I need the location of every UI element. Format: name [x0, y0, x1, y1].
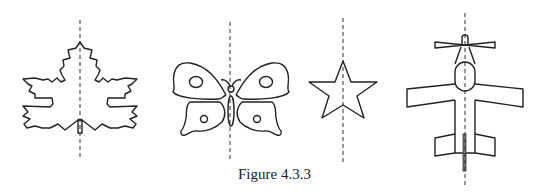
butterfly-left-antenna	[221, 80, 230, 86]
airplane-right-tail	[475, 134, 495, 156]
butterfly-right-upper-spot	[260, 77, 273, 88]
star-figure	[309, 18, 377, 163]
airplane-left-wing	[407, 84, 455, 107]
butterfly-left-lower-wing	[181, 102, 225, 135]
butterfly-right-lower-spot	[254, 116, 261, 123]
butterfly-right-lower-wing	[237, 102, 281, 135]
butterfly-left-upper-spot	[190, 77, 203, 88]
airplane-figure	[407, 13, 523, 185]
butterfly-figure	[173, 22, 289, 160]
butterfly-body	[228, 96, 234, 126]
figure-caption: Figure 4.3.3	[0, 166, 549, 183]
butterfly-left-lower-spot	[201, 116, 208, 123]
butterfly-left-upper-wing	[173, 63, 226, 99]
airplane-left-tail	[435, 134, 455, 156]
airplane-right-wing	[475, 84, 523, 107]
maple-leaf-figure	[23, 20, 137, 158]
butterfly-right-antenna	[232, 80, 241, 86]
butterfly-right-upper-wing	[236, 63, 289, 99]
butterfly-head	[228, 86, 234, 92]
